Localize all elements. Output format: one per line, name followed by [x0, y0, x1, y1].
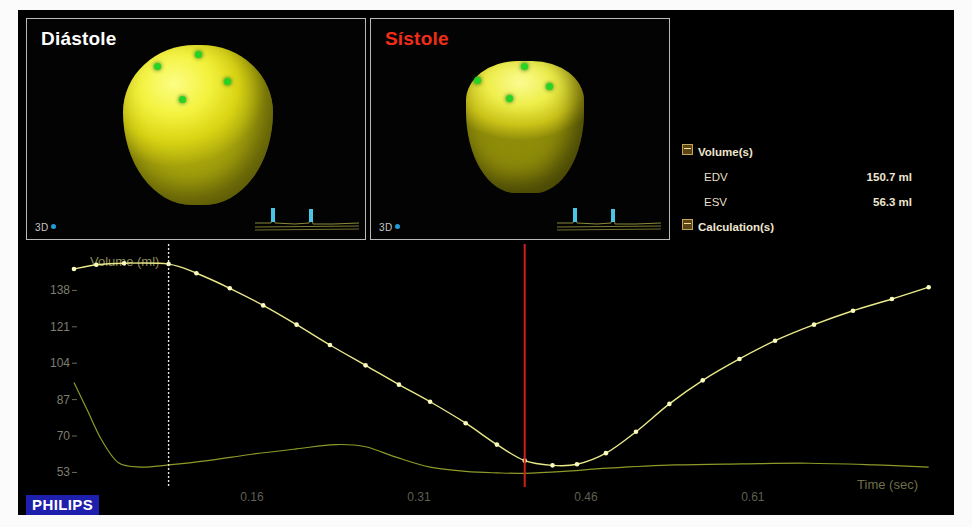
ecg-strip-systole — [557, 203, 661, 235]
chart-data-point[interactable] — [851, 308, 856, 313]
ecg-strip-diastole — [255, 203, 359, 235]
chart-data-point[interactable] — [890, 297, 895, 302]
measure-label: EDV — [682, 165, 728, 190]
page-root: Diástole 3D Sístole — [0, 0, 972, 527]
viewport-diastole[interactable]: Diástole 3D — [26, 18, 366, 240]
chart-data-point[interactable] — [428, 399, 433, 404]
y-axis-tick-label: 87 — [57, 393, 71, 407]
philips-logo: PHILIPS — [26, 495, 99, 515]
chart-data-point[interactable] — [812, 322, 817, 327]
chart-data-point[interactable] — [294, 322, 299, 327]
landmark-point — [546, 83, 553, 90]
chart-series-line — [74, 263, 929, 466]
landmark-point — [179, 96, 186, 103]
y-axis-tick-label: 53 — [57, 465, 71, 479]
chart-data-point[interactable] — [94, 262, 99, 267]
measure-group-label: Calculation(s) — [698, 215, 774, 240]
viewport-diastole-title: Diástole — [41, 28, 117, 50]
chart-data-point[interactable] — [575, 462, 580, 467]
chart-data-point[interactable] — [926, 285, 931, 290]
measure-group-label: Volume(s) — [698, 140, 753, 165]
measure-label: ESV — [682, 190, 727, 215]
chart-data-point[interactable] — [737, 357, 742, 362]
viewport-systole[interactable]: Sístole 3D — [370, 18, 670, 240]
y-axis-tick-label: 104 — [50, 356, 70, 370]
chart-data-point[interactable] — [397, 382, 402, 387]
mode-indicator-icon — [51, 224, 56, 229]
chart-data-point[interactable] — [495, 442, 500, 447]
chart-series-line — [74, 382, 929, 473]
chart-data-point[interactable] — [634, 429, 639, 434]
x-axis-tick-label: 0.46 — [574, 490, 598, 504]
x-axis-tick-label: 0.61 — [741, 490, 765, 504]
measure-value: 150.7 ml — [867, 165, 912, 190]
landmark-point — [474, 77, 481, 84]
landmark-point — [154, 63, 161, 70]
measure-row-esv: ESV 56.3 ml — [682, 190, 944, 215]
mode-tag-label: 3D — [379, 222, 393, 233]
chart-data-point[interactable] — [227, 286, 232, 291]
ultrasound-screen: Diástole 3D Sístole — [18, 10, 954, 515]
mode-tag-systole: 3D — [379, 222, 400, 233]
x-axis-title: Time (sec) — [857, 477, 918, 492]
chart-data-point[interactable] — [463, 421, 468, 426]
chart-data-point[interactable] — [328, 343, 333, 348]
lv-cast-systole[interactable] — [466, 61, 584, 193]
viewport-systole-title: Sístole — [385, 28, 449, 50]
landmark-point — [195, 51, 202, 58]
y-axis-tick-label: 70 — [57, 429, 71, 443]
lv-surface-systole — [466, 61, 584, 193]
chart-canvas: 1381211048770530.160.310.460.61Volume (m… — [26, 242, 946, 511]
chart-data-point[interactable] — [122, 261, 127, 266]
chart-data-point[interactable] — [72, 267, 77, 272]
landmark-point — [506, 95, 513, 102]
landmark-point — [224, 78, 231, 85]
chart-data-point[interactable] — [194, 271, 199, 276]
chart-data-point[interactable] — [604, 451, 609, 456]
collapse-expander-icon[interactable] — [682, 219, 693, 230]
chart-data-point[interactable] — [667, 402, 672, 407]
collapse-expander-icon[interactable] — [682, 144, 693, 155]
measure-value: 56.3 ml — [873, 190, 912, 215]
mode-tag-label: 3D — [35, 222, 49, 233]
lv-cast-diastole[interactable] — [123, 45, 273, 205]
x-axis-tick-label: 0.16 — [240, 490, 264, 504]
y-axis-tick-label: 121 — [50, 320, 70, 334]
x-axis-tick-label: 0.31 — [407, 490, 431, 504]
measure-row-edv: EDV 150.7 ml — [682, 165, 944, 190]
measure-group-volumes[interactable]: Volume(s) — [682, 140, 944, 165]
y-axis-tick-label: 138 — [50, 283, 70, 297]
chart-data-point[interactable] — [700, 378, 705, 383]
landmark-point — [521, 63, 528, 70]
chart-data-point[interactable] — [261, 303, 266, 308]
lv-surface-diastole — [123, 45, 273, 205]
chart-data-point[interactable] — [550, 463, 555, 468]
volume-time-chart[interactable]: 1381211048770530.160.310.460.61Volume (m… — [26, 242, 946, 511]
mode-tag-diastole: 3D — [35, 222, 56, 233]
chart-data-point[interactable] — [773, 338, 778, 343]
chart-data-point[interactable] — [363, 363, 368, 368]
mode-indicator-icon — [395, 224, 400, 229]
measure-group-calculations[interactable]: Calculation(s) — [682, 215, 944, 240]
